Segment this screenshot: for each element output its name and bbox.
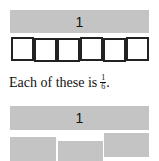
sixth-box-5 [103,38,126,62]
sixth-box-1 [11,37,34,61]
whole-bar-bottom: 1 [10,106,149,130]
piece-1 [10,137,56,161]
whole-bar-top: 1 [10,10,149,33]
sixth-box-2 [34,38,57,62]
piece-3 [104,133,149,157]
fraction-denominator: 6 [101,83,105,91]
sixth-box-4 [80,37,103,61]
caption: Each of these is 1 6 . [9,74,110,91]
caption-text: Each of these is [9,75,97,91]
whole-label-bottom: 1 [76,110,84,126]
sixth-box-3 [57,38,80,62]
sixth-box-6 [126,37,149,61]
piece-2 [58,141,103,161]
whole-label-top: 1 [76,14,84,30]
caption-period: . [106,75,110,91]
